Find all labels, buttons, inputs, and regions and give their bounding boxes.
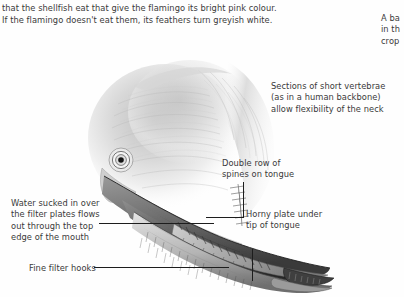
annotation-spines-on-tongue: Double row of spines on tongue	[222, 158, 294, 181]
annotation-horny-plate: Horny plate under tip of tongue	[246, 209, 322, 232]
annotation-vertebrae: Sections of short vertebrae (as in a hum…	[271, 81, 385, 115]
leader-line-spines	[243, 182, 244, 217]
leader-line-horny-plate	[206, 217, 244, 218]
body-paragraph: that the shellfish eat that give the fla…	[2, 3, 277, 26]
eye	[109, 148, 133, 172]
annotation-water-flow: Water sucked in over the filter plates f…	[11, 198, 100, 244]
leader-line-water-flow	[99, 223, 214, 224]
leader-line-beak-tip	[252, 249, 253, 281]
annotation-filter-hooks: Fine filter hooks	[29, 263, 96, 275]
leader-line-filter-hooks	[94, 267, 229, 268]
book-page: that the shellfish eat that give the fla…	[0, 0, 404, 297]
right-column-clipped-text: A ba in th crop	[381, 13, 400, 47]
